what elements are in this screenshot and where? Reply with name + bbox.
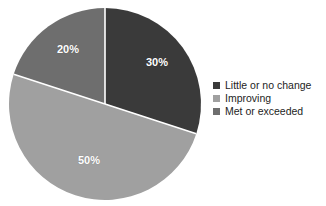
chart-legend: Little or no changeImprovingMet or excee…: [213, 79, 325, 118]
legend-item-label: Little or no change: [225, 79, 311, 92]
pie-slice-label: 20%: [57, 43, 79, 55]
pie-slice-label: 50%: [78, 154, 100, 166]
legend-swatch-icon: [213, 95, 220, 102]
legend-item-label: Met or exceeded: [225, 105, 303, 118]
pie-chart-figure: 30%50%20% Little or no changeImprovingMe…: [0, 0, 326, 206]
legend-swatch-icon: [213, 108, 220, 115]
legend-item[interactable]: Little or no change: [213, 79, 325, 92]
pie-slice-label: 30%: [146, 56, 168, 68]
legend-item[interactable]: Met or exceeded: [213, 105, 325, 118]
legend-swatch-icon: [213, 82, 220, 89]
legend-item[interactable]: Improving: [213, 92, 325, 105]
legend-item-label: Improving: [225, 92, 271, 105]
